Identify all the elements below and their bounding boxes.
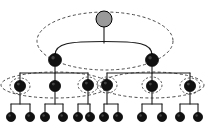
node-circle [137, 112, 146, 121]
node-circle [14, 80, 25, 91]
tree-node-n20[interactable] [193, 112, 202, 121]
node-specular-highlight [101, 114, 103, 116]
node-circle [157, 112, 166, 121]
node-circle [85, 112, 94, 121]
node-circle [49, 54, 62, 67]
node-specular-highlight [42, 114, 44, 116]
node-specular-highlight [159, 114, 161, 116]
tree-node-n10[interactable] [25, 112, 34, 121]
node-specular-highlight [177, 114, 179, 116]
tree-diagram-svg [0, 0, 205, 126]
node-specular-highlight [115, 114, 117, 116]
tree-node-n16[interactable] [113, 112, 122, 121]
node-specular-highlight [87, 114, 89, 116]
node-specular-highlight [17, 83, 20, 86]
node-circle [175, 112, 184, 121]
node-circle [40, 112, 49, 121]
tree-node-n4[interactable] [49, 80, 60, 91]
node-circle [25, 112, 34, 121]
node-specular-highlight [27, 114, 29, 116]
tree-node-n17[interactable] [137, 112, 146, 121]
node-specular-highlight [104, 82, 107, 85]
node-specular-highlight [187, 83, 190, 86]
node-specular-highlight [52, 83, 55, 86]
node-circle [113, 112, 122, 121]
node-circle [146, 80, 157, 91]
tree-node-n6[interactable] [101, 79, 112, 90]
tree-node-n14[interactable] [85, 112, 94, 121]
node-circle [82, 79, 93, 90]
node-specular-highlight [60, 114, 62, 116]
node-circle [49, 80, 60, 91]
node-circle [193, 112, 202, 121]
tree-node-n19[interactable] [175, 112, 184, 121]
node-specular-highlight [148, 56, 151, 59]
tree-node-n7[interactable] [146, 80, 157, 91]
tree-node-n9[interactable] [6, 112, 15, 121]
tree-node-n5[interactable] [82, 79, 93, 90]
tree-diagram-canvas [0, 0, 205, 126]
node-circle [58, 112, 67, 121]
node-circle [96, 11, 112, 27]
tree-node-n12[interactable] [58, 112, 67, 121]
node-specular-highlight [8, 114, 10, 116]
node-circle [146, 54, 159, 67]
tree-node-n11[interactable] [40, 112, 49, 121]
tree-node-n13[interactable] [73, 112, 82, 121]
node-specular-highlight [75, 114, 77, 116]
tree-node-n8[interactable] [184, 80, 195, 91]
node-circle [101, 79, 112, 90]
node-specular-highlight [139, 114, 141, 116]
node-specular-highlight [85, 82, 88, 85]
tree-node-n1[interactable] [49, 54, 62, 67]
node-circle [184, 80, 195, 91]
node-circle [99, 112, 108, 121]
node-specular-highlight [51, 56, 54, 59]
node-circle [6, 112, 15, 121]
tree-node-n3[interactable] [14, 80, 25, 91]
node-specular-highlight [149, 83, 152, 86]
tree-node-n18[interactable] [157, 112, 166, 121]
tree-node-n15[interactable] [99, 112, 108, 121]
node-specular-highlight [195, 114, 197, 116]
tree-node-n0[interactable] [96, 11, 112, 27]
tree-node-n2[interactable] [146, 54, 159, 67]
node-circle [73, 112, 82, 121]
